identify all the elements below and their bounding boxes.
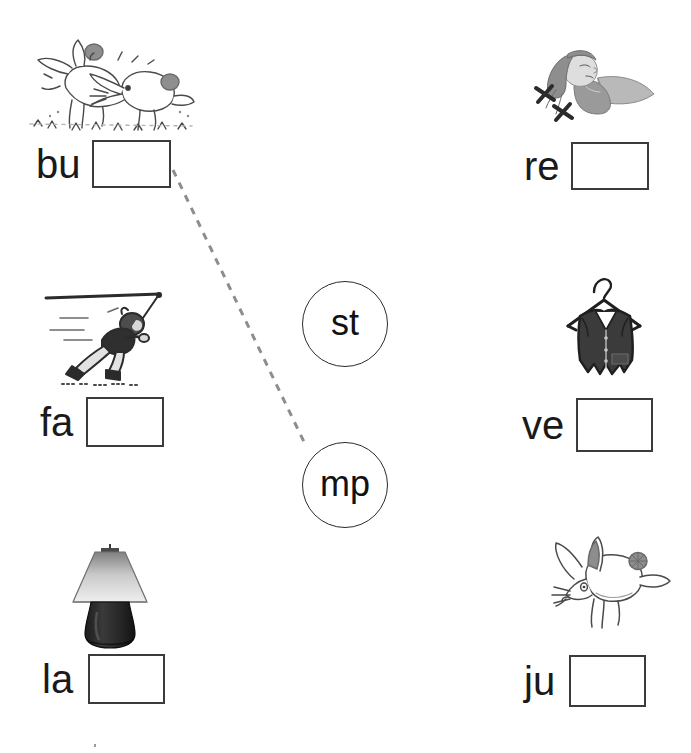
word-row-la: la	[42, 654, 165, 704]
word-prefix-fa: fa	[40, 402, 73, 442]
worksheet-item-bu: bu	[0, 0, 260, 200]
word-prefix-bu: bu	[36, 144, 81, 184]
answer-box-bu[interactable]	[92, 140, 171, 188]
word-row-re: re	[524, 142, 649, 190]
word-row-ju: ju	[524, 655, 646, 707]
answer-box-re[interactable]	[571, 142, 649, 190]
word-row-bu: bu	[36, 140, 171, 188]
worksheet-item-re: re	[500, 0, 691, 200]
answer-box-la[interactable]	[88, 654, 165, 704]
answer-box-fa[interactable]	[86, 397, 164, 447]
word-prefix-ju: ju	[524, 661, 555, 701]
blend-circle-st[interactable]: st	[302, 281, 388, 367]
vest-on-hanger-illustration	[550, 268, 662, 394]
person-running-fast-illustration	[44, 286, 176, 390]
answer-box-ve[interactable]	[576, 398, 653, 452]
rabbit-jumping-illustration	[540, 533, 675, 633]
scan-speck	[94, 744, 96, 747]
blend-circle-mp[interactable]: mp	[302, 442, 388, 528]
worksheet-page: bu	[0, 0, 691, 753]
blend-label-st: st	[331, 305, 359, 341]
answer-box-ju[interactable]	[569, 655, 646, 707]
word-prefix-re: re	[524, 146, 560, 186]
worksheet-item-ju: ju	[500, 515, 691, 715]
girl-resting-sleeping-illustration	[524, 34, 659, 126]
worksheet-item-fa: fa	[0, 258, 260, 458]
two-rabbits-bumping-illustration	[28, 26, 196, 134]
blend-label-mp: mp	[320, 466, 370, 502]
word-row-ve: ve	[522, 398, 653, 452]
word-row-fa: fa	[40, 397, 164, 447]
table-lamp-illustration	[55, 540, 165, 650]
worksheet-item-ve: ve	[500, 258, 691, 458]
word-prefix-ve: ve	[522, 405, 564, 445]
word-prefix-la: la	[42, 659, 73, 699]
worksheet-item-la: la	[0, 515, 260, 715]
